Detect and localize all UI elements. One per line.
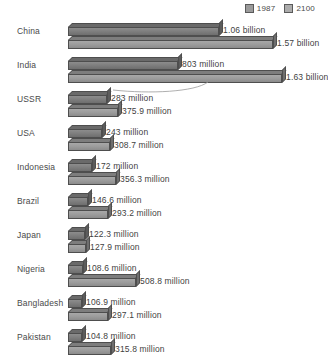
bar-1987[interactable] [68, 27, 219, 36]
bar-group: 146.6 million293.2 million [68, 192, 321, 226]
bar-2100[interactable] [68, 108, 118, 117]
bar-group: 803 million1.63 billion [68, 56, 321, 90]
legend-swatch-1987-icon [245, 4, 254, 13]
value-label-2100: 1.63 billion [286, 72, 328, 82]
bar-front-face [68, 40, 273, 49]
country-label: China [17, 26, 40, 36]
bar-2100[interactable] [68, 312, 108, 321]
bar-group: 283 million375.9 million [68, 90, 321, 124]
legend-item-1987[interactable]: 1987 [245, 4, 276, 13]
value-label-1987: 104.8 million [86, 331, 136, 341]
legend-label-2100: 2100 [296, 5, 315, 13]
bar-1987[interactable] [68, 129, 102, 138]
bar-1987[interactable] [68, 163, 92, 172]
bar-2100[interactable] [68, 244, 86, 253]
bar-group: 243 million308.7 million [68, 124, 321, 158]
value-label-1987: 122.3 million [89, 229, 139, 239]
bar-2100[interactable] [68, 74, 282, 83]
bar-front-face [68, 61, 178, 70]
bar-group: 106.9 million297.1 million [68, 294, 321, 328]
bar-front-face [68, 176, 116, 185]
value-label-2100: 375.9 million [122, 106, 172, 116]
bar-group: 172 million356.3 million [68, 158, 321, 192]
bar-1987[interactable] [68, 61, 178, 70]
bar-front-face [68, 346, 111, 355]
country-label: Bangladesh [17, 298, 63, 308]
bar-1987[interactable] [68, 197, 88, 206]
bar-front-face [68, 142, 110, 151]
bar-front-face [68, 244, 86, 253]
bar-2100[interactable] [68, 278, 136, 287]
chart-legend: 1987 2100 [245, 4, 315, 13]
country-label: Pakistan [17, 332, 51, 342]
country-label: Japan [17, 230, 41, 240]
bar-1987[interactable] [68, 95, 107, 104]
country-label: Brazil [17, 196, 39, 206]
chart-row: USSR283 million375.9 million [0, 90, 321, 124]
bar-group: 108.6 million508.8 million [68, 260, 321, 294]
bar-front-face [68, 163, 92, 172]
value-label-1987: 146.6 million [92, 195, 142, 205]
chart-row: Indonesia172 million356.3 million [0, 158, 321, 192]
bar-front-face [68, 74, 282, 83]
country-label: India [17, 60, 36, 70]
chart-row: India803 million1.63 billion [0, 56, 321, 90]
chart-row: Brazil146.6 million293.2 million [0, 192, 321, 226]
value-label-2100: 293.2 million [112, 208, 162, 218]
bar-front-face [68, 210, 108, 219]
value-label-1987: 803 million [182, 59, 224, 69]
bar-2100[interactable] [68, 346, 111, 355]
value-label-1987: 283 million [111, 93, 153, 103]
bar-front-face [68, 312, 108, 321]
chart-row: Pakistan104.8 million315.8 million [0, 328, 321, 359]
chart-row: Nigeria108.6 million508.8 million [0, 260, 321, 294]
chart-row: USA243 million308.7 million [0, 124, 321, 158]
bar-1987[interactable] [68, 265, 83, 274]
value-label-2100: 127.9 million [90, 242, 140, 252]
bar-front-face [68, 129, 102, 138]
bar-1987[interactable] [68, 231, 85, 240]
legend-label-1987: 1987 [257, 5, 276, 13]
value-label-2100: 315.8 million [115, 344, 165, 354]
chart-rows: China1.06 billion1.57 billionIndia803 mi… [0, 22, 321, 359]
value-label-2100: 508.8 million [140, 276, 190, 286]
bar-2100[interactable] [68, 210, 108, 219]
bar-front-face [68, 95, 107, 104]
value-label-1987: 1.06 billion [223, 25, 265, 35]
bar-1987[interactable] [68, 333, 82, 342]
legend-item-2100[interactable]: 2100 [284, 4, 315, 13]
country-label: Nigeria [17, 264, 45, 274]
bar-front-face [68, 299, 82, 308]
bar-front-face [68, 265, 83, 274]
bar-front-face [68, 278, 136, 287]
country-label: Indonesia [17, 162, 55, 172]
chart-row: Bangladesh106.9 million297.1 million [0, 294, 321, 328]
bar-group: 104.8 million315.8 million [68, 328, 321, 359]
bar-group: 122.3 million127.9 million [68, 226, 321, 260]
value-label-2100: 1.57 billion [277, 38, 319, 48]
bar-front-face [68, 231, 85, 240]
legend-swatch-2100-icon [284, 4, 293, 13]
value-label-1987: 108.6 million [87, 263, 137, 273]
country-label: USSR [17, 94, 41, 104]
chart-row: Japan122.3 million127.9 million [0, 226, 321, 260]
value-label-2100: 308.7 million [114, 140, 164, 150]
bar-front-face [68, 27, 219, 36]
bar-front-face [68, 108, 118, 117]
bar-2100[interactable] [68, 40, 273, 49]
bar-2100[interactable] [68, 176, 116, 185]
bar-group: 1.06 billion1.57 billion [68, 22, 321, 56]
value-label-2100: 356.3 million [120, 174, 170, 184]
bar-2100[interactable] [68, 142, 110, 151]
bar-1987[interactable] [68, 299, 82, 308]
bar-front-face [68, 197, 88, 206]
value-label-2100: 297.1 million [112, 310, 162, 320]
chart-row: China1.06 billion1.57 billion [0, 22, 321, 56]
bar-front-face [68, 333, 82, 342]
country-label: USA [17, 128, 35, 138]
